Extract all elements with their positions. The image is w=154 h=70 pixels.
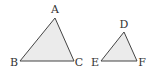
vertex-label-d: D	[120, 18, 129, 31]
diagram-canvas: A B C D E F	[0, 0, 154, 70]
triangles-figure: A B C D E F	[0, 0, 154, 70]
triangle-abc	[20, 18, 74, 61]
vertex-label-b: B	[10, 56, 18, 69]
vertex-label-a: A	[50, 3, 60, 16]
vertex-label-f: F	[138, 56, 146, 69]
vertex-label-c: C	[75, 56, 83, 69]
vertex-label-e: E	[91, 56, 99, 69]
triangle-def	[101, 32, 137, 61]
